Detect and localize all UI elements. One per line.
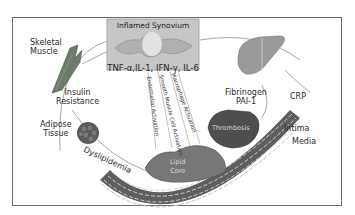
adipose-tissue-label: Adipose Tissue: [40, 120, 72, 138]
media-label: Media: [292, 137, 316, 146]
lipid-core-label: Lipid Core: [170, 158, 186, 176]
crp-connector: [285, 70, 310, 92]
liver-icon: [238, 36, 285, 74]
insulin-resistance-line1: Insulin: [56, 88, 99, 97]
insulin-resistance-line2: Resistance: [56, 97, 99, 106]
adipose-tissue-line1: Adipose: [40, 120, 72, 129]
fibrinogen-label: Fibrinogen PAI-1: [225, 88, 267, 106]
fibrinogen-line2: PAI-1: [225, 97, 267, 106]
lipid-core-line2: Core: [170, 167, 186, 176]
cytokines-label: TNF-α,IL-1, IFN-γ, IL-6: [103, 63, 203, 73]
diagram-artwork: [0, 0, 355, 215]
adipose-tissue-icon: [77, 122, 99, 144]
crp-label: CRP: [290, 92, 306, 101]
fibrinogen-line1: Fibrinogen: [225, 88, 267, 97]
adipose-tissue-line2: Tissue: [40, 129, 72, 138]
skeletal-muscle-line1: Skeletal: [30, 38, 62, 47]
lipid-core-line1: Lipid: [170, 158, 186, 167]
skeletal-muscle-line2: Muscle: [30, 47, 62, 56]
skeletal-muscle-label: Skeletal Muscle: [30, 38, 62, 56]
intima-label: Intima: [284, 124, 309, 133]
insulin-resistance-label: Insulin Resistance: [56, 88, 99, 106]
synovium-title: Inflamed Synovium: [107, 21, 199, 30]
thrombosis-label: Thrombosis: [212, 124, 250, 133]
